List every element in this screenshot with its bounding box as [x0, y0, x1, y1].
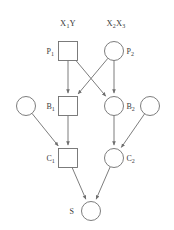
- bayesian-network-diagram: X1YX2X3 P1P2B1B2C1C2S: [0, 0, 174, 230]
- node-label-s: S: [70, 207, 74, 216]
- node-p2[interactable]: [105, 42, 124, 61]
- node-b2[interactable]: [105, 97, 124, 116]
- node-c2[interactable]: [105, 149, 124, 168]
- edge-c2-s: [96, 167, 110, 199]
- node-b0[interactable]: [17, 97, 36, 116]
- node-label-p2: P2: [127, 47, 134, 56]
- node-label-c2: C2: [127, 154, 135, 163]
- edge-p2-b1: [78, 58, 108, 94]
- edge-b0-c1: [32, 113, 58, 145]
- node-label-c1: C1: [47, 154, 55, 163]
- node-b3[interactable]: [141, 97, 160, 116]
- node-label-b1: B1: [47, 102, 55, 111]
- node-c1[interactable]: [59, 149, 78, 168]
- node-p1[interactable]: [59, 42, 78, 61]
- edge-c1-s: [72, 168, 86, 200]
- edge-b3-c2: [121, 114, 144, 148]
- edge-layer: [32, 58, 145, 199]
- node-label-p1: P1: [47, 47, 54, 56]
- diagram-canvas: [0, 0, 174, 230]
- header-x2x3: X2X3: [106, 18, 125, 28]
- node-label-b2: B2: [127, 102, 135, 111]
- node-b1[interactable]: [59, 97, 78, 116]
- node-s[interactable]: [82, 202, 101, 221]
- node-layer: [17, 42, 160, 221]
- header-x1y: X1Y: [60, 18, 76, 28]
